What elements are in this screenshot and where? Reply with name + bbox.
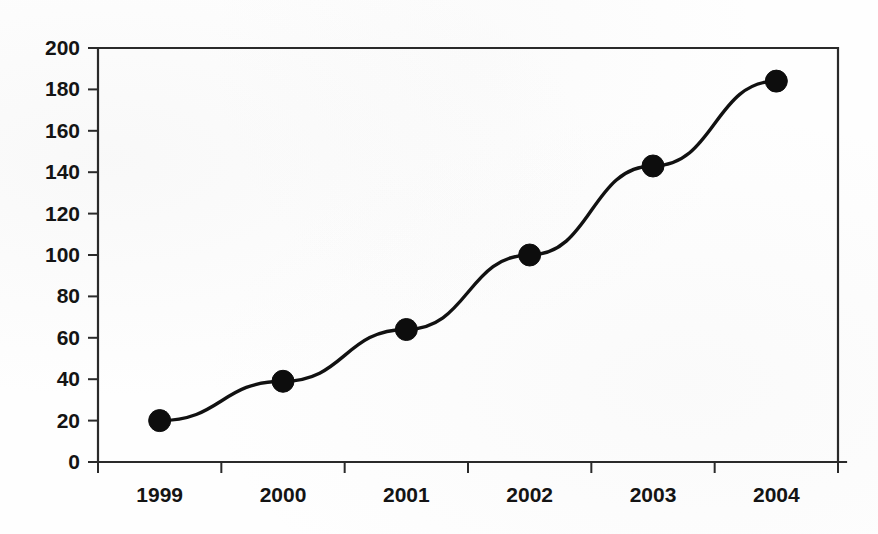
data-point-2002	[519, 244, 541, 266]
x-tick-label-2000: 2000	[260, 483, 307, 506]
data-point-1999	[149, 410, 171, 432]
y-tick-label-180: 180	[45, 77, 80, 100]
y-tick-label-120: 120	[45, 202, 80, 225]
data-point-2001	[395, 319, 417, 341]
x-axis-ticks	[98, 462, 838, 473]
chart-figure: 020406080100120140160180200 199920002001…	[0, 0, 878, 534]
y-tick-label-20: 20	[57, 409, 80, 432]
series-line-1	[160, 81, 777, 421]
y-tick-label-160: 160	[45, 119, 80, 142]
data-point-2003	[642, 155, 664, 177]
y-tick-label-200: 200	[45, 36, 80, 59]
y-tick-label-100: 100	[45, 243, 80, 266]
y-tick-label-140: 140	[45, 160, 80, 183]
y-tick-label-0: 0	[68, 450, 80, 473]
x-tick-label-2001: 2001	[383, 483, 430, 506]
y-axis-tick-labels: 020406080100120140160180200	[45, 36, 80, 473]
y-axis-ticks	[88, 48, 98, 462]
x-axis-tick-labels: 199920002001200220032004	[136, 483, 800, 506]
line-chart-svg: 020406080100120140160180200 199920002001…	[0, 0, 878, 534]
series-markers-1	[149, 70, 788, 431]
x-tick-label-2003: 2003	[630, 483, 677, 506]
y-tick-label-40: 40	[57, 367, 80, 390]
y-tick-label-60: 60	[57, 326, 80, 349]
x-tick-label-2004: 2004	[753, 483, 800, 506]
x-tick-label-2002: 2002	[506, 483, 553, 506]
x-tick-label-1999: 1999	[136, 483, 183, 506]
data-point-2000	[272, 370, 294, 392]
y-tick-label-80: 80	[57, 284, 80, 307]
data-point-2004	[765, 70, 787, 92]
